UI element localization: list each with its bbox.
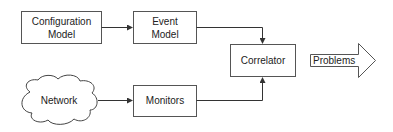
node-network-cloud: Network xyxy=(22,75,97,124)
output-problems-arrow: Problems xyxy=(311,44,376,78)
node-correlator-label: Correlator xyxy=(241,55,286,66)
node-monitors: Monitors xyxy=(134,86,197,117)
edge-monitors-to-correlator xyxy=(197,78,263,101)
node-event-model-line2: Model xyxy=(151,29,178,40)
node-configuration-model-line2: Model xyxy=(48,29,75,40)
node-event-model: Event Model xyxy=(134,12,197,44)
edge-event-to-correlator xyxy=(197,28,263,44)
diagram-canvas: Configuration Model Event Model Correlat… xyxy=(0,0,393,132)
node-monitors-label: Monitors xyxy=(146,95,184,106)
node-correlator: Correlator xyxy=(231,45,296,77)
node-configuration-model: Configuration Model xyxy=(22,12,102,44)
node-event-model-line1: Event xyxy=(152,16,178,27)
problems-label: Problems xyxy=(313,55,355,66)
node-network-label: Network xyxy=(41,95,79,106)
node-configuration-model-line1: Configuration xyxy=(32,16,91,27)
